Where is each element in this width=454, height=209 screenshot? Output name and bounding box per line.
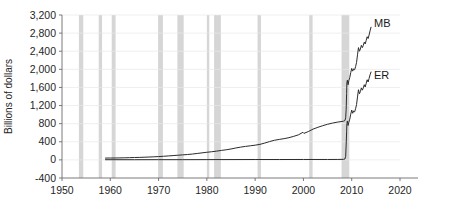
x-tick-label: 1970 [147,184,171,196]
x-tick-label: 1980 [195,184,219,196]
x-axis [62,178,418,181]
x-tick-label: 2010 [340,184,364,196]
recession-band [207,15,209,178]
recession-band [112,15,116,178]
monetary-base-excess-reserves-chart: -40004008001,2001,6002,0002,4002,8003,20… [0,0,454,209]
y-tick-label: 400 [38,135,56,147]
y-tick-label: 1,200 [30,99,56,111]
y-tick-label: -400 [35,172,56,184]
x-tick-label: 1950 [50,184,74,196]
series-label-mb: MB [374,17,391,29]
y-axis-title-text: Billions of dollars [3,59,14,134]
x-tick-label: 2000 [292,184,316,196]
recession-band [158,15,163,178]
x-tick-label: 1990 [243,184,267,196]
y-tick-label: 2,800 [30,27,56,39]
x-tick-label: 1960 [99,184,123,196]
recession-band [99,15,102,178]
y-tick-label: 2,000 [30,63,56,75]
y-tick-label: 2,400 [30,45,56,57]
y-tick-label: 3,200 [30,9,56,21]
y-tick-labels: -40004008001,2001,6002,0002,4002,8003,20… [30,9,56,184]
x-tick-label: 2020 [388,184,412,196]
series-label-er: ER [374,69,389,81]
y-tick-label: 800 [38,117,56,129]
x-tick-labels: 19501960197019801990200020102020 [50,184,412,196]
recession-band [79,15,83,178]
recession-band [258,15,261,178]
chart-canvas: -40004008001,2001,6002,0002,4002,8003,20… [0,0,454,209]
y-tick-label: 0 [50,153,56,165]
recession-band [177,15,183,178]
y-axis-title: Billions of dollars [3,59,14,134]
recession-band [214,15,221,178]
y-axis [59,15,62,178]
y-tick-label: 1,600 [30,81,56,93]
recession-band [309,15,312,178]
